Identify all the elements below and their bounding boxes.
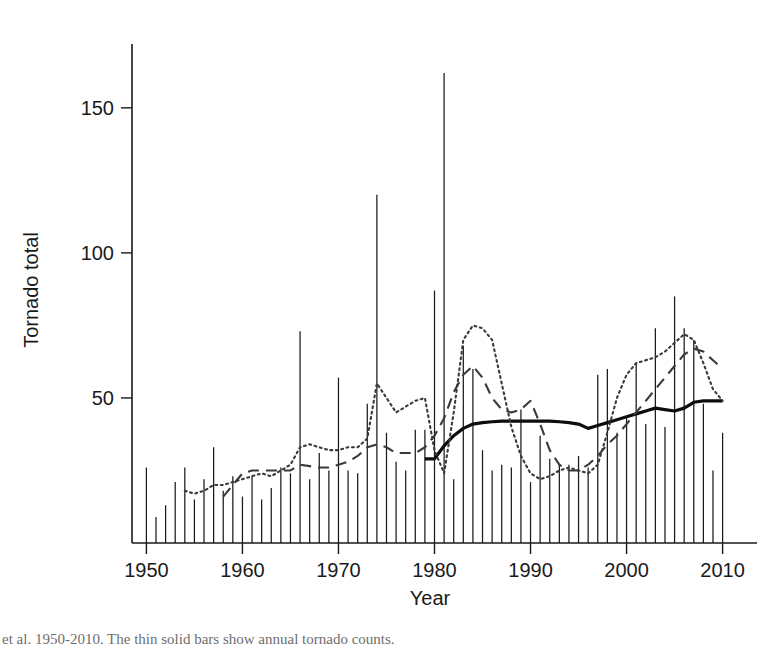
- x-tick-label-1970: 1970: [316, 559, 361, 581]
- x-tick-label-1990: 1990: [508, 559, 553, 581]
- y-tick-label-100: 100: [81, 242, 114, 264]
- x-tick-label-2010: 2010: [700, 559, 745, 581]
- tornado-total-chart: 501001501950196019701980199020002010 Tor…: [0, 0, 774, 617]
- series-dotted-trend: [185, 325, 723, 493]
- figure-caption-text: et al. 1950-2010. The thin solid bars sh…: [2, 631, 395, 647]
- y-axis-title: Tornado total: [20, 232, 42, 348]
- plot-bars: [146, 73, 722, 543]
- x-tick-label-1950: 1950: [124, 559, 169, 581]
- y-tick-label-50: 50: [92, 387, 114, 409]
- x-tick-label-2000: 2000: [604, 559, 649, 581]
- series-solid-trend: [425, 401, 723, 459]
- figure-caption: et al. 1950-2010. The thin solid bars sh…: [0, 617, 774, 647]
- plot-series: [185, 325, 723, 496]
- x-tick-label-1960: 1960: [220, 559, 265, 581]
- x-axis-title: Year: [410, 587, 451, 609]
- x-tick-label-1980: 1980: [412, 559, 457, 581]
- y-tick-label-150: 150: [81, 97, 114, 119]
- chart-figure: 501001501950196019701980199020002010 Tor…: [0, 0, 774, 647]
